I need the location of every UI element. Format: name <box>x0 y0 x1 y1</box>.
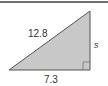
right-triangle-diagram: 12.8 s 7.3 <box>0 0 108 86</box>
hypotenuse-label: 12.8 <box>28 28 48 39</box>
base-label: 7.3 <box>44 74 58 85</box>
triangle-shape <box>9 11 90 70</box>
vertical-side-label: s <box>94 40 99 50</box>
